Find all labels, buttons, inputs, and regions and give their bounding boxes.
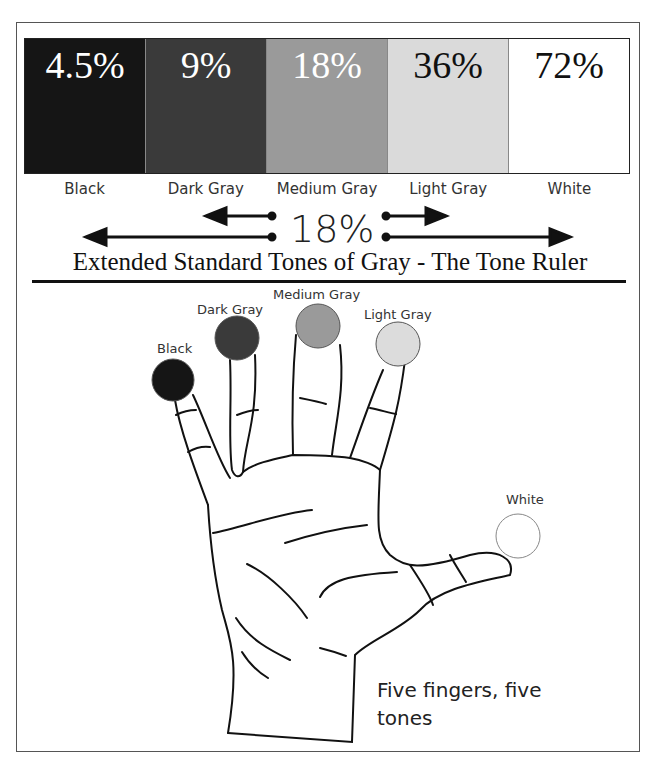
finger-label-black: Black: [157, 341, 192, 356]
caption-line: tones: [377, 704, 577, 732]
swatch-label: Dark Gray: [145, 180, 266, 198]
finger-dot-white: [496, 514, 540, 558]
swatch-black: 4.5%: [25, 39, 146, 173]
swatch-percent: 36%: [388, 43, 508, 87]
swatch-percent: 4.5%: [25, 43, 145, 87]
finger-label-light-gray: Light Gray: [364, 307, 432, 322]
diagram-title: Extended Standard Tones of Gray - The To…: [30, 248, 630, 276]
finger-label-white: White: [506, 492, 544, 507]
swatch-label: Light Gray: [388, 180, 509, 198]
swatch-medium-gray: 18%: [267, 39, 388, 173]
swatch-labels: Black Dark Gray Medium Gray Light Gray W…: [24, 180, 630, 198]
finger-dot-dark-gray: [215, 316, 259, 360]
swatch-percent: 18%: [267, 43, 387, 87]
swatch-label: Black: [24, 180, 145, 198]
finger-dot-black: [152, 359, 194, 401]
swatch-white: 72%: [509, 39, 629, 173]
caption-line: Five fingers, five: [377, 676, 577, 704]
finger-dot-light-gray: [376, 322, 420, 366]
swatch-percent: 72%: [509, 43, 629, 87]
swatch-label: White: [509, 180, 630, 198]
swatch-label: Medium Gray: [266, 180, 387, 198]
tone-swatches: 4.5% 9% 18% 36% 72%: [24, 38, 630, 174]
finger-label-dark-gray: Dark Gray: [197, 302, 263, 317]
swatch-percent: 9%: [146, 43, 266, 87]
caption: Five fingers, five tones: [377, 676, 577, 732]
center-value: 18%: [290, 207, 374, 251]
finger-label-medium-gray: Medium Gray: [273, 287, 360, 302]
finger-dot-medium-gray: [296, 304, 340, 348]
swatch-dark-gray: 9%: [146, 39, 267, 173]
swatch-light-gray: 36%: [388, 39, 509, 173]
